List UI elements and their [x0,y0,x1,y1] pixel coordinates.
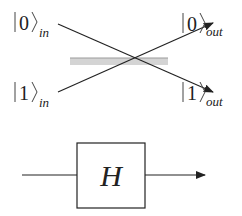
output-label-1: 1 out [183,82,223,109]
input-subscript-0: in [39,25,49,40]
input-subscript-1: in [39,95,49,110]
input-label-0: 0 in [15,12,49,40]
hadamard-gate-label: H [99,159,124,192]
input-label-1: 1 in [15,82,49,110]
output-state-1: 1 [187,82,197,104]
input-state-1: 1 [19,82,29,104]
output-subscript-0: out [206,24,223,39]
output-state-0: 0 [187,13,197,35]
beam-splitter [70,58,168,65]
diagram-canvas: 0 in 1 in 0 out 1 out H [0,0,242,216]
output-subscript-1: out [206,94,223,109]
output-label-0: 0 out [183,13,223,39]
input-state-0: 0 [19,12,29,34]
